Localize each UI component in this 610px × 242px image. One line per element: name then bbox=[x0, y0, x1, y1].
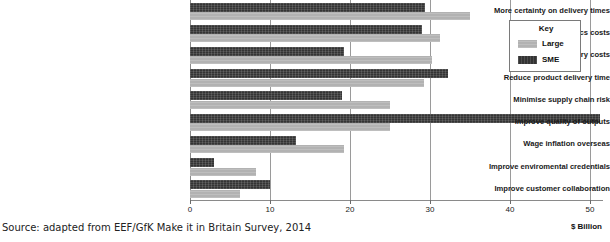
x-tick-label: 0 bbox=[175, 205, 205, 214]
x-axis-line bbox=[190, 200, 603, 201]
bar-sme bbox=[190, 25, 422, 34]
bar-large bbox=[190, 145, 344, 153]
bar-large bbox=[190, 123, 390, 131]
bar-sme bbox=[190, 158, 214, 167]
bar-large bbox=[190, 56, 432, 64]
x-tick-label: 50 bbox=[575, 205, 605, 214]
bar-large bbox=[190, 168, 256, 176]
category-label: Reduce product delivery time bbox=[424, 73, 610, 82]
bar-sme bbox=[190, 47, 344, 56]
category-label: Improve customer collaboration bbox=[424, 184, 610, 193]
category-label: Improve enviromental credentials bbox=[424, 162, 610, 171]
bar-sme bbox=[190, 136, 296, 145]
x-tick-10 bbox=[270, 200, 271, 204]
bar-large bbox=[190, 34, 440, 42]
category-label: Wage inflation overseas bbox=[424, 139, 610, 148]
legend-label: Large bbox=[542, 39, 564, 48]
legend-swatch-sme bbox=[518, 56, 537, 64]
legend-label: SME bbox=[542, 55, 559, 64]
bar-sme bbox=[190, 69, 448, 78]
legend: Key LargeSME bbox=[509, 20, 581, 72]
x-tick-label: 10 bbox=[255, 205, 285, 214]
x-tick-20 bbox=[350, 200, 351, 204]
chart-figure: More certainty on delivery timesMinimise… bbox=[0, 0, 610, 242]
x-tick-40 bbox=[510, 200, 511, 204]
source-note: Source: adapted from EEF/GfK Make it in … bbox=[2, 222, 311, 233]
bar-large bbox=[190, 79, 424, 87]
bar-sme bbox=[190, 180, 270, 189]
category-label: More certainty on delivery times bbox=[424, 6, 610, 15]
category-label: Minimise supply chain risk bbox=[424, 95, 610, 104]
category-label: Improve quality of outputs bbox=[424, 117, 610, 126]
x-tick-label: 30 bbox=[415, 205, 445, 214]
bar-large bbox=[190, 101, 390, 109]
legend-swatch-large bbox=[518, 40, 537, 48]
x-tick-50 bbox=[590, 200, 591, 204]
bar-sme bbox=[190, 91, 342, 100]
x-tick-0 bbox=[190, 200, 191, 204]
x-tick-label: 40 bbox=[495, 205, 525, 214]
bar-large bbox=[190, 190, 240, 198]
x-tick-30 bbox=[430, 200, 431, 204]
x-tick-label: 20 bbox=[335, 205, 365, 214]
x-axis-title: $ Billion bbox=[571, 222, 602, 231]
bar-sme bbox=[190, 3, 425, 12]
legend-title: Key bbox=[510, 24, 582, 33]
